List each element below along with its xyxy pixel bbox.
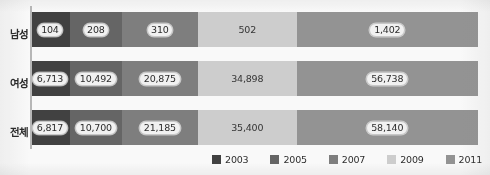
segment-value-label: 6,817 — [32, 121, 68, 135]
bar-segment-2005[interactable]: 10,492 — [70, 61, 122, 96]
bar-segment-2009[interactable]: 502 — [198, 12, 297, 47]
value-axis-line — [30, 6, 32, 149]
bar-segment-2005[interactable]: 10,700 — [70, 110, 122, 145]
bar-segment-2011[interactable]: 56,738 — [297, 61, 478, 96]
bar-segment-2011[interactable]: 1,402 — [297, 12, 478, 47]
bar-segment-2003[interactable]: 6,713 — [30, 61, 70, 96]
legend-swatch-icon — [270, 155, 279, 164]
legend-label: 2007 — [342, 154, 365, 165]
legend-swatch-icon — [329, 155, 338, 164]
category-label-male: 남성 — [2, 26, 29, 41]
segment-value-label: 35,400 — [226, 121, 268, 135]
legend-swatch-icon — [212, 155, 221, 164]
bar-segment-2009[interactable]: 34,898 — [198, 61, 297, 96]
segment-value-label: 10,492 — [75, 72, 117, 86]
segment-value-label: 34,898 — [226, 72, 268, 86]
bar-segment-2007[interactable]: 21,185 — [122, 110, 198, 145]
legend-label: 2011 — [459, 154, 482, 165]
segment-value-label: 10,700 — [75, 121, 117, 135]
stacked-bar-chart: 남성 여성 전체 1042083105021,402 6,71310,49220… — [0, 0, 490, 175]
bar-segment-2011[interactable]: 58,140 — [297, 110, 478, 145]
segment-value-label: 104 — [37, 23, 63, 37]
bar-segment-2007[interactable]: 20,875 — [122, 61, 198, 96]
chart-legend: 20032005200720092011 — [0, 151, 482, 167]
bar-segment-2003[interactable]: 6,817 — [30, 110, 70, 145]
legend-item-2011[interactable]: 2011 — [446, 154, 482, 165]
segment-value-label: 1,402 — [369, 23, 405, 37]
legend-item-2007[interactable]: 2007 — [329, 154, 365, 165]
bar-segment-2007[interactable]: 310 — [122, 12, 198, 47]
segment-value-label: 208 — [83, 23, 109, 37]
legend-label: 2005 — [283, 154, 306, 165]
bar-row-female[interactable]: 6,71310,49220,87534,89856,738 — [30, 61, 478, 96]
legend-item-2003[interactable]: 2003 — [212, 154, 248, 165]
plot-area: 남성 여성 전체 1042083105021,402 6,71310,49220… — [0, 0, 490, 175]
legend-swatch-icon — [387, 155, 396, 164]
bar-segment-2003[interactable]: 104 — [30, 12, 70, 47]
segment-value-label: 502 — [234, 23, 260, 37]
segment-value-label: 56,738 — [366, 72, 408, 86]
segment-value-label: 6,713 — [32, 72, 68, 86]
segment-value-label: 310 — [147, 23, 173, 37]
segment-value-label: 58,140 — [366, 121, 408, 135]
category-label-female: 여성 — [2, 75, 29, 90]
segment-value-label: 21,185 — [139, 121, 181, 135]
bar-row-total[interactable]: 6,81710,70021,18535,40058,140 — [30, 110, 478, 145]
legend-item-2009[interactable]: 2009 — [387, 154, 423, 165]
legend-label: 2009 — [400, 154, 423, 165]
legend-label: 2003 — [225, 154, 248, 165]
legend-item-2005[interactable]: 2005 — [270, 154, 306, 165]
bar-segment-2005[interactable]: 208 — [70, 12, 122, 47]
segment-value-label: 20,875 — [139, 72, 181, 86]
category-label-total: 전체 — [2, 124, 29, 139]
legend-swatch-icon — [446, 155, 455, 164]
bar-segment-2009[interactable]: 35,400 — [198, 110, 297, 145]
bar-row-male[interactable]: 1042083105021,402 — [30, 12, 478, 47]
